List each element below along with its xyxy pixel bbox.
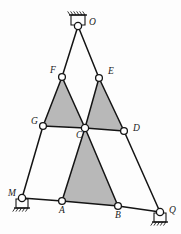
member-G-M	[22, 126, 43, 198]
truss-svg-canvas: OFEGCDABMQ	[0, 0, 181, 234]
node-label-B: B	[115, 210, 121, 220]
node-label-E: E	[107, 66, 114, 76]
member-O-F	[62, 26, 78, 77]
node-G[interactable]	[40, 123, 47, 130]
member-D-Q	[124, 131, 160, 212]
member-O-E	[78, 26, 99, 78]
node-M[interactable]	[18, 194, 25, 201]
node-F[interactable]	[59, 74, 66, 81]
member-B-Q	[118, 206, 160, 212]
node-C[interactable]	[81, 124, 88, 131]
node-label-O: O	[89, 17, 96, 27]
node-E[interactable]	[96, 75, 103, 82]
node-D[interactable]	[121, 128, 128, 135]
node-B[interactable]	[115, 203, 122, 210]
support-hatch-Q-0	[151, 222, 153, 226]
node-A[interactable]	[59, 198, 66, 205]
node-label-A: A	[58, 205, 65, 215]
truss-diagram: OFEGCDABMQ	[0, 0, 181, 234]
node-O[interactable]	[74, 22, 81, 29]
node-label-M: M	[7, 188, 17, 198]
support-hatch-M-0	[13, 208, 15, 212]
node-label-Q: Q	[169, 205, 176, 215]
node-label-D: D	[132, 123, 140, 133]
triangle-FGC	[43, 77, 85, 128]
node-Q[interactable]	[156, 208, 163, 215]
node-label-C: C	[76, 130, 83, 140]
node-label-G: G	[31, 116, 38, 126]
support-hatch-O-0	[68, 11, 70, 15]
node-label-F: F	[49, 65, 56, 75]
